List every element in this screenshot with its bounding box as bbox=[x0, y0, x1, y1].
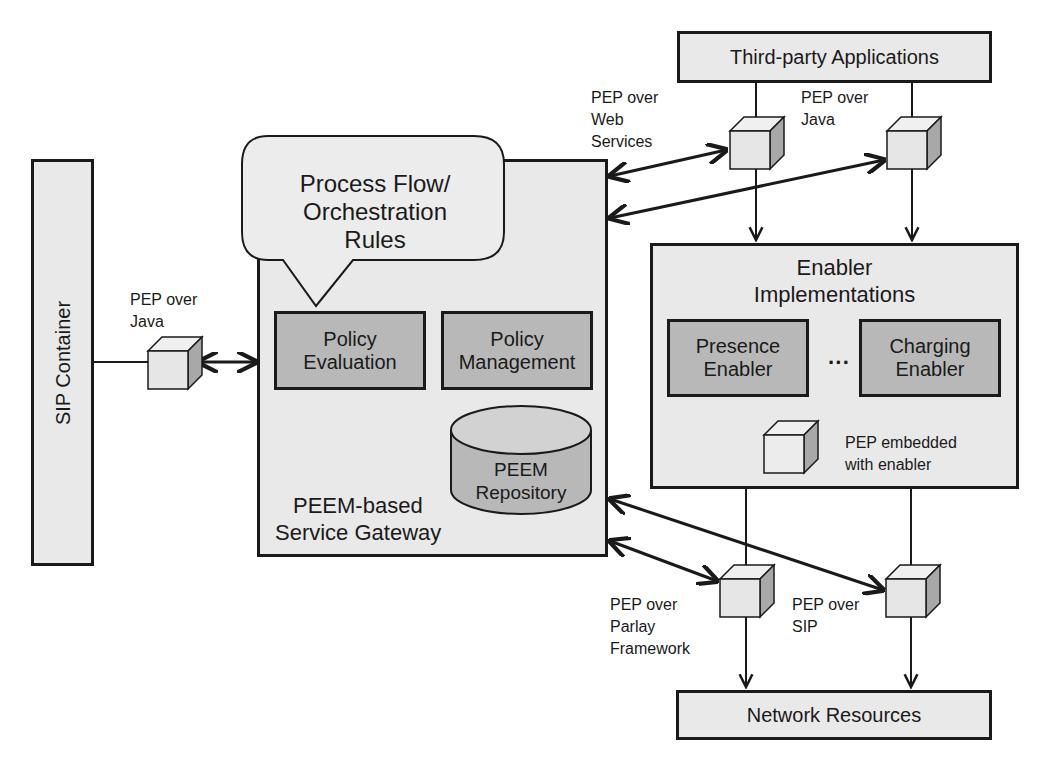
pep-cube-icon bbox=[720, 565, 774, 617]
embedded-pep-label: PEP embedded with enabler bbox=[845, 432, 957, 476]
bubble-line1: Process Flow/ bbox=[243, 170, 507, 198]
charging-line1: Charging bbox=[889, 335, 970, 358]
network-resources-box: Network Resources bbox=[676, 690, 992, 740]
pep-sip-java-label: PEP over Java bbox=[130, 289, 197, 333]
pep-sip-line1: PEP over bbox=[792, 594, 859, 616]
repository-line2: Repository bbox=[451, 481, 591, 504]
pep-parlay-line2: Parlay bbox=[610, 616, 690, 638]
enablers-title-line2: Implementations bbox=[650, 281, 1019, 308]
gateway-label-line1: PEEM-based bbox=[275, 492, 441, 519]
policy-management-box: Policy Management bbox=[441, 311, 593, 390]
repository-line1: PEEM bbox=[451, 458, 591, 481]
pep-sip-line2: SIP bbox=[792, 616, 859, 638]
pep-ws-line1: PEP over bbox=[591, 87, 658, 109]
embedded-pep-line1: PEP embedded bbox=[845, 432, 957, 454]
enabler-implementations-title: Enabler Implementations bbox=[650, 254, 1019, 308]
gateway-java-pep-arrow bbox=[610, 160, 884, 218]
presence-line1: Presence bbox=[696, 335, 781, 358]
gateway-parlay-pep-arrow bbox=[610, 541, 717, 581]
embedded-pep-line2: with enabler bbox=[845, 454, 957, 476]
third-party-applications-label: Third-party Applications bbox=[730, 46, 939, 69]
charging-line2: Enabler bbox=[889, 358, 970, 381]
orchestration-rules-text: Process Flow/ Orchestration Rules bbox=[243, 170, 507, 254]
sip-container-label: SIP Container bbox=[48, 213, 78, 513]
policy-evaluation-line2: Evaluation bbox=[303, 351, 396, 374]
pep-sip-java-line1: PEP over bbox=[130, 289, 197, 311]
charging-enabler-box: Charging Enabler bbox=[859, 319, 1001, 397]
pep-cube-icon bbox=[148, 337, 202, 389]
presence-line2: Enabler bbox=[696, 358, 781, 381]
gateway-sip-pep-arrow bbox=[610, 499, 883, 590]
policy-management-line1: Policy bbox=[459, 328, 576, 351]
pep-cube-icon bbox=[730, 117, 784, 169]
gateway-ws-pep-arrow bbox=[610, 150, 726, 176]
pep-cube-icon bbox=[887, 117, 941, 169]
pep-top-java-label: PEP over Java bbox=[801, 87, 868, 131]
gateway-label: PEEM-based Service Gateway bbox=[275, 492, 441, 546]
ellipsis: ··· bbox=[815, 350, 863, 376]
gateway-label-line2: Service Gateway bbox=[275, 519, 441, 546]
pep-cube-icon bbox=[886, 565, 940, 617]
pep-sip-label: PEP over SIP bbox=[792, 594, 859, 638]
pep-ws-line2: Web bbox=[591, 109, 658, 131]
pep-top-java-line2: Java bbox=[801, 109, 868, 131]
pep-parlay-line1: PEP over bbox=[610, 594, 690, 616]
pep-ws-line3: Services bbox=[591, 131, 658, 153]
peem-repository-label: PEEM Repository bbox=[451, 458, 591, 504]
policy-evaluation-box: Policy Evaluation bbox=[274, 311, 426, 390]
bubble-line2: Orchestration bbox=[243, 198, 507, 226]
policy-evaluation-line1: Policy bbox=[303, 328, 396, 351]
policy-management-line2: Management bbox=[459, 351, 576, 374]
presence-enabler-box: Presence Enabler bbox=[667, 319, 809, 397]
pep-parlay-label: PEP over Parlay Framework bbox=[610, 594, 690, 660]
pep-top-java-line1: PEP over bbox=[801, 87, 868, 109]
third-party-applications-box: Third-party Applications bbox=[677, 31, 992, 83]
pep-web-services-label: PEP over Web Services bbox=[591, 87, 658, 153]
enablers-title-line1: Enabler bbox=[650, 254, 1019, 281]
network-resources-label: Network Resources bbox=[747, 704, 922, 727]
sip-container-box: SIP Container bbox=[31, 159, 94, 566]
pep-sip-java-line2: Java bbox=[130, 311, 197, 333]
bubble-line3: Rules bbox=[243, 226, 507, 254]
pep-parlay-line3: Framework bbox=[610, 638, 690, 660]
